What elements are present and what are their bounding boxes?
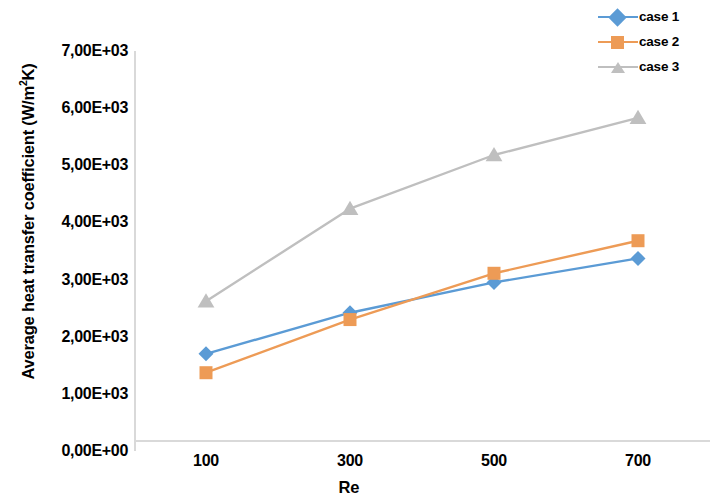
series-line: [206, 118, 638, 301]
legend-marker-square-icon: [611, 36, 624, 49]
y-axis-title-tail: K): [19, 63, 37, 80]
y-axis-title-superscript: 2: [17, 80, 29, 86]
legend-marker-diamond-icon: [608, 8, 626, 26]
y-axis-tick-label: 4,00E+03: [36, 213, 128, 231]
x-axis-tick-label: 300: [310, 452, 390, 470]
data-series: [200, 234, 645, 379]
data-point-marker: [199, 346, 214, 361]
legend-key-icon: [598, 8, 638, 26]
data-point-marker: [630, 110, 647, 124]
y-axis-tick-label: 3,00E+03: [36, 271, 128, 289]
y-axis-tick-label: 5,00E+03: [36, 156, 128, 174]
x-axis-tick-label: 700: [598, 452, 678, 470]
data-series: [198, 110, 647, 308]
plot-area: [134, 40, 710, 440]
y-axis-tick-label: 7,00E+03: [36, 42, 128, 60]
legend-label: case 3: [638, 59, 679, 74]
legend-item-case-3[interactable]: case 3: [598, 54, 710, 79]
y-axis-tick-labels: 0,00E+001,00E+032,00E+033,00E+034,00E+03…: [36, 0, 128, 501]
data-point-marker: [342, 201, 359, 215]
series-line: [206, 258, 638, 353]
legend-key-icon: [598, 33, 638, 51]
legend-key-icon: [598, 58, 638, 76]
chart-legend: case 1case 2case 3: [598, 4, 710, 79]
data-point-marker: [488, 267, 501, 280]
legend-item-case-1[interactable]: case 1: [598, 4, 710, 29]
x-axis-tick-label: 500: [454, 452, 534, 470]
data-point-marker: [632, 234, 645, 247]
data-point-marker: [631, 251, 646, 266]
y-axis-tick-label: 0,00E+00: [36, 442, 128, 460]
data-series: [199, 251, 646, 361]
y-axis-tick-label: 1,00E+03: [36, 385, 128, 403]
series-plot: [134, 40, 710, 451]
y-axis-title: Average heat transfer coefficient (W/m2K…: [19, 22, 38, 422]
legend-marker-triangle-icon: [611, 62, 625, 73]
y-axis-title-main: Average heat transfer coefficient (W/m: [19, 86, 37, 379]
data-point-marker: [344, 313, 357, 326]
data-point-marker: [198, 293, 215, 307]
line-chart: Average heat transfer coefficient (W/m2K…: [0, 0, 710, 501]
x-axis-tick-labels: 100300500700: [134, 452, 710, 476]
y-axis-tick-label: 2,00E+03: [36, 328, 128, 346]
x-axis-tick-label: 100: [166, 452, 246, 470]
legend-item-case-2[interactable]: case 2: [598, 29, 710, 54]
legend-label: case 1: [638, 9, 679, 24]
legend-label: case 2: [638, 34, 679, 49]
y-axis-tick-label: 6,00E+03: [36, 99, 128, 117]
data-point-marker: [200, 366, 213, 379]
x-axis-title: Re: [134, 478, 564, 497]
